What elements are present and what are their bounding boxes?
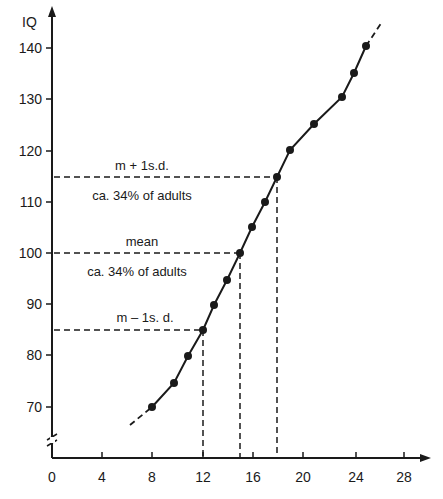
y-tick-labels: 140 130 120 110 100 90 80 70 [19,40,43,415]
curve-extension-high [366,22,382,46]
x-tick-16: 16 [245,469,261,485]
x-tick-8: 8 [148,469,156,485]
y-tick-140: 140 [19,40,43,56]
x-tick-24: 24 [348,469,364,485]
label-pct-lower: ca. 34% of adults [87,264,187,279]
x-tick-28: 28 [396,469,412,485]
x-axis-arrow-icon [420,454,431,462]
label-m-minus-1sd: m – 1s. d. [116,310,173,325]
y-axis-title: IQ [22,14,37,30]
data-points [148,42,370,411]
label-m-plus-1sd: m + 1s.d. [115,158,169,173]
y-tick-110: 110 [20,194,43,210]
x-tick-labels: 0 4 8 12 16 20 24 28 [48,469,412,485]
label-pct-upper: ca. 34% of adults [92,188,192,203]
y-tick-100: 100 [19,245,43,261]
curve-extension-low [130,407,152,425]
y-tick-70: 70 [26,399,42,415]
iq-curve [152,46,366,407]
y-tick-120: 120 [19,143,43,159]
y-tick-90: 90 [26,296,42,312]
y-tick-80: 80 [26,347,42,363]
x-tick-4: 4 [98,469,106,485]
y-tick-130: 130 [19,91,43,107]
x-tick-12: 12 [195,469,211,485]
x-tick-0: 0 [48,469,56,485]
iq-chart: 140 130 120 110 100 90 80 70 IQ 0 4 8 12… [0,0,443,499]
y-axis-arrow-icon [48,6,56,17]
x-tick-20: 20 [295,469,311,485]
label-mean: mean [126,234,159,249]
